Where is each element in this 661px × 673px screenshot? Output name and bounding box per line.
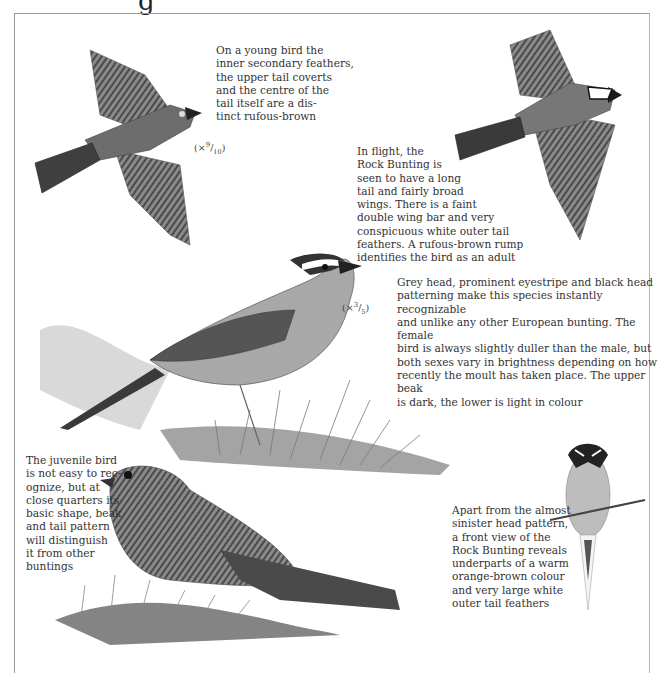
caption-adult-flight: In flight, the Rock Bunting is seen to h… <box>357 145 577 265</box>
caption-juvenile-flight: On a young bird the inner secondary feat… <box>216 44 416 124</box>
scale-label-three-fifths: (×3/5) <box>342 301 369 316</box>
caption-juvenile: The juvenile bird is not easy to rec- og… <box>26 454 136 574</box>
caption-front-view: Apart from the almost sinister head patt… <box>452 504 582 610</box>
juvenile-flight-illustration <box>30 35 210 255</box>
caption-adult-head: Grey head, prominent eyestripe and black… <box>397 276 659 409</box>
scale-label-nine-tenths: (×9/10) <box>194 141 225 156</box>
